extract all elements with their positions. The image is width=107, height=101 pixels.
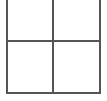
middle-horizontal-line <box>6 40 101 42</box>
middle-vertical-line <box>52 0 54 94</box>
right-vertical-line <box>99 0 101 94</box>
pane-top-left[interactable] <box>8 0 52 40</box>
grid-canvas <box>0 0 107 101</box>
pane-top-right[interactable] <box>54 0 99 40</box>
bottom-horizontal-line <box>6 92 101 94</box>
pane-bottom-left[interactable] <box>8 42 52 92</box>
left-vertical-line <box>6 0 8 94</box>
pane-bottom-right[interactable] <box>54 42 99 92</box>
